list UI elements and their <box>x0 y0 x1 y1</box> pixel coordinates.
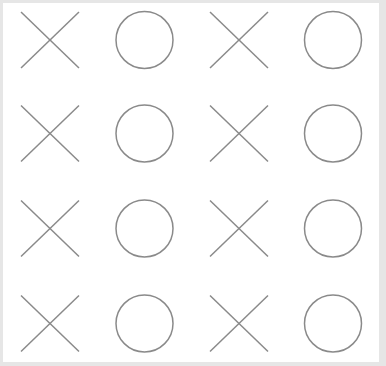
cross-icon <box>210 12 268 68</box>
cross-icon <box>21 296 79 352</box>
cross-icon <box>210 106 268 162</box>
cross-icon <box>21 12 79 68</box>
circle-icon <box>116 105 173 162</box>
cross-icon <box>210 201 268 257</box>
cross-icon <box>21 201 79 257</box>
cross-icon <box>210 296 268 352</box>
circle-icon <box>305 105 362 162</box>
circle-icon <box>116 295 173 352</box>
cross-icon <box>21 106 79 162</box>
circle-icon <box>305 295 362 352</box>
circle-icon <box>305 200 362 257</box>
tic-tac-toe-grid <box>0 0 386 366</box>
circle-icon <box>305 12 362 69</box>
circle-icon <box>116 200 173 257</box>
circle-icon <box>116 12 173 69</box>
